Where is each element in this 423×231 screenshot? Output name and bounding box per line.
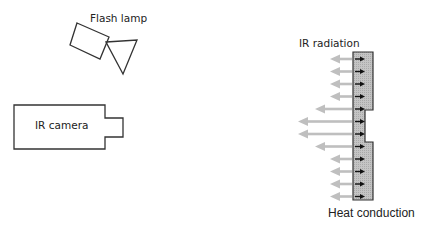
ir-radiation-label: IR radiation <box>299 37 360 49</box>
ir-radiation-arrows <box>298 55 352 202</box>
flash-lamp-icon <box>70 23 137 74</box>
ir-camera-label: IR camera <box>35 119 88 131</box>
flash-lamp-label: Flash lamp <box>90 12 147 24</box>
diagram-canvas <box>0 0 423 231</box>
sample-slab <box>353 52 373 200</box>
heat-conduction-label: Heat conduction <box>328 206 415 220</box>
